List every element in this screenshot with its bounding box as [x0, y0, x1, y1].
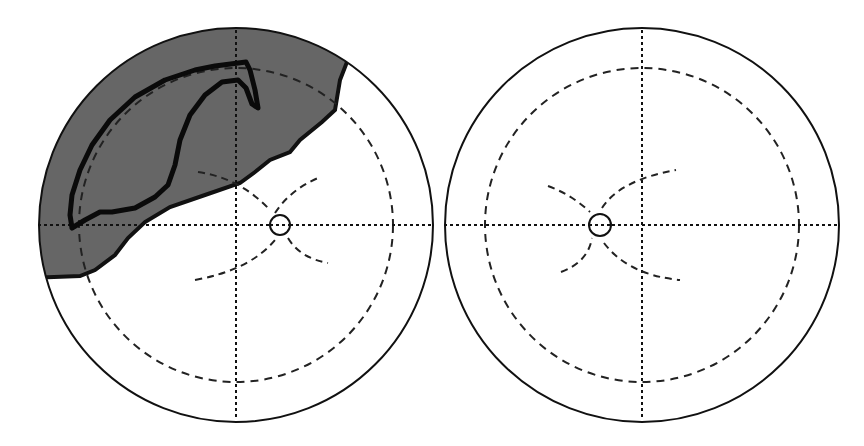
- arcuate-dash-upper-right: [602, 170, 676, 208]
- arcuate-dash-upper-left: [548, 186, 590, 212]
- arcuate-dash-upper-right: [275, 178, 318, 213]
- arcuate-dash-lower-left: [561, 238, 592, 272]
- diagram-canvas: [0, 0, 864, 446]
- visual-field-figure: visual-field-diagram: [0, 0, 864, 446]
- left-visual-field: [30, 20, 433, 422]
- right-visual-field: [444, 28, 839, 422]
- defect-shading: [30, 20, 347, 278]
- arcuate-dash-lower-right: [288, 238, 328, 263]
